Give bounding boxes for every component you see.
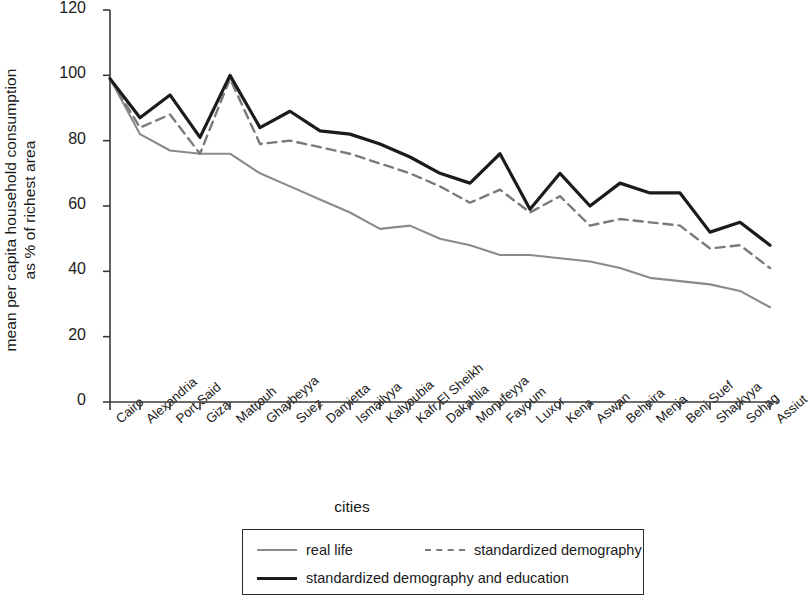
legend-entry-label: real life xyxy=(306,542,353,558)
legend-entry[interactable]: standardized demography and education xyxy=(257,566,569,590)
legend-entry[interactable]: real life xyxy=(257,538,353,562)
chart-legend: real lifestandardized demographystandard… xyxy=(242,529,644,595)
legend-swatch-icon xyxy=(257,549,297,551)
legend-entry-label: standardized demography and education xyxy=(306,570,569,586)
legend-entry-label: standardized demography xyxy=(474,542,642,558)
series-line-2 xyxy=(110,75,770,245)
legend-swatch-icon xyxy=(257,577,297,580)
legend-swatch-icon xyxy=(425,549,465,551)
legend-entry[interactable]: standardized demography xyxy=(425,538,642,562)
